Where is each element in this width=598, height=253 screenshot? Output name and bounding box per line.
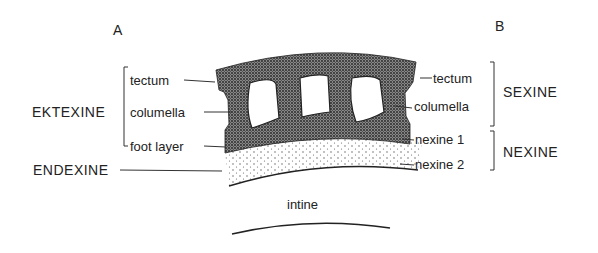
label-tectum-right: tectum	[433, 72, 472, 85]
label-nexine: NEXINE	[503, 146, 558, 159]
label-sexine: SEXINE	[503, 86, 557, 99]
label-intine: intine	[287, 198, 318, 211]
label-nexine-2: nexine 2	[415, 158, 464, 171]
label-columella-left: columella	[130, 106, 185, 119]
nexine-bracket-r	[490, 131, 494, 170]
label-nexine-1: nexine 1	[415, 133, 464, 146]
label-tectum-left: tectum	[130, 74, 169, 87]
columella-cavity	[351, 76, 384, 122]
label-foot-layer: foot layer	[130, 140, 183, 153]
pollen-wall-diagram	[0, 0, 598, 253]
label-endexine: ENDEXINE	[33, 164, 109, 177]
panel-label-b: B	[495, 20, 505, 33]
intine-line	[232, 223, 390, 234]
sexine-bracket	[186, 62, 193, 126]
label-ektexine: EKTEXINE	[32, 106, 105, 119]
label-columella-right: columella	[414, 100, 469, 113]
sexine-bracket-r	[490, 62, 494, 126]
ektexine-bracket	[124, 67, 128, 146]
panel-label-a: A	[113, 24, 123, 37]
columella-cavity	[300, 75, 330, 117]
